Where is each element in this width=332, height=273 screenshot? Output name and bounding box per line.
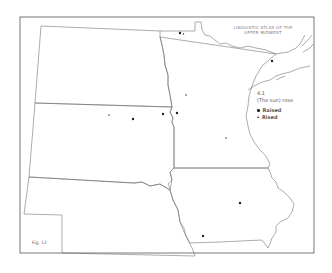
map-legend: 4.1 (The sun) rose Raised Rised: [257, 90, 293, 120]
raised-dot: [271, 60, 273, 62]
state-north-dakota: [35, 26, 172, 107]
data-points: [108, 32, 273, 237]
wisconsin-peninsula: [276, 35, 313, 80]
dot-icon: [257, 109, 260, 112]
raised-dot: [132, 118, 134, 120]
map-canvas: [0, 0, 332, 273]
rised-triangle: [108, 114, 110, 116]
state-nebraska: [24, 177, 195, 256]
raised-dot: [162, 113, 164, 115]
legend-phrase: (The sun) rose: [257, 97, 293, 104]
map-frame: [20, 17, 314, 253]
lake-superior-shore: [248, 66, 310, 90]
state-iowa: [170, 168, 294, 248]
atlas-title: Linguistic Atlas of the Upper Midwest: [228, 25, 298, 35]
atlas-title-line2: Upper Midwest: [228, 30, 298, 35]
figure-label: Fig. 12: [32, 240, 47, 245]
rised-triangle: [185, 94, 187, 96]
rised-triangle: [225, 137, 227, 139]
rised-triangle: [183, 33, 185, 35]
raised-dot: [239, 202, 241, 204]
state-south-dakota: [29, 103, 174, 190]
triangle-icon: [257, 116, 259, 118]
legend-entry-rised: Rised: [257, 114, 293, 121]
legend-label: Rised: [262, 114, 278, 121]
raised-dot: [202, 235, 204, 237]
raised-dot: [179, 32, 181, 34]
raised-dot: [176, 112, 178, 114]
